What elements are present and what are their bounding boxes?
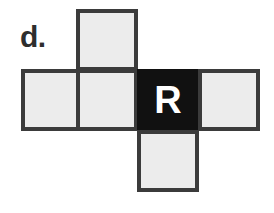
net-face-bottom-letter — [141, 134, 195, 188]
cube-net-figure: d. R — [0, 0, 274, 213]
net-face-middle-4 — [198, 69, 260, 131]
net-face-middle-2 — [76, 69, 138, 131]
net-face-middle-2-letter — [80, 73, 134, 127]
net-face-middle-1 — [21, 69, 83, 131]
net-face-middle-3-highlighted: R — [137, 69, 199, 131]
net-face-top — [76, 9, 138, 71]
cube-net-grid: R — [0, 0, 274, 213]
net-face-top-letter — [80, 13, 134, 67]
net-face-middle-1-letter — [25, 73, 79, 127]
net-face-bottom — [137, 130, 199, 192]
net-face-middle-4-letter — [202, 73, 256, 127]
net-face-letter-r: R — [141, 73, 195, 127]
